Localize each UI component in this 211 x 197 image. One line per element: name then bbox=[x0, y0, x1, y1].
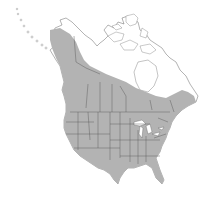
aleutian-islands bbox=[16, 8, 47, 49]
range-map bbox=[0, 0, 211, 197]
